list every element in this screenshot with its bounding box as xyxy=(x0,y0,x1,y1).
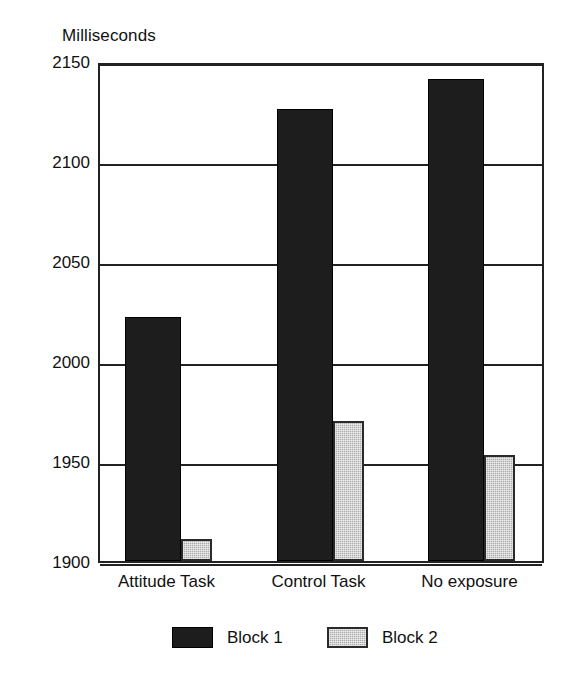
plot-area xyxy=(98,63,544,563)
x-axis-category-labels: Attitude TaskControl TaskNo exposure xyxy=(98,572,544,600)
gray-swatch xyxy=(327,627,368,648)
bar-chart: Milliseconds 215021002050200019501900 At… xyxy=(0,0,571,682)
black-swatch xyxy=(172,627,213,648)
legend-label: Block 1 xyxy=(227,628,283,648)
y-tick-label: 1950 xyxy=(10,454,90,471)
x-category-label: Attitude Task xyxy=(87,572,247,592)
y-tick-label: 2150 xyxy=(10,54,90,71)
y-tick-label: 1900 xyxy=(10,554,90,571)
gridline-2150 xyxy=(100,64,542,66)
x-category-label: No exposure xyxy=(390,572,550,592)
y-tick-label: 2050 xyxy=(10,254,90,271)
gridline-1900 xyxy=(100,564,542,566)
y-tick-label: 2000 xyxy=(10,354,90,371)
bar-block2 xyxy=(484,455,515,561)
legend-item-block-2: Block 2 xyxy=(327,627,438,648)
bar-block1 xyxy=(277,109,333,561)
bar-block2 xyxy=(181,539,212,561)
y-tick-label: 2100 xyxy=(10,154,90,171)
y-axis-title: Milliseconds xyxy=(62,26,156,46)
y-axis-tick-labels: 215021002050200019501900 xyxy=(8,63,90,563)
x-category-label: Control Task xyxy=(239,572,399,592)
legend-label: Block 2 xyxy=(382,628,438,648)
bar-block1 xyxy=(125,317,181,561)
bar-block2 xyxy=(333,421,364,561)
chart-legend: Block 1Block 2 xyxy=(0,627,571,661)
legend-item-block-1: Block 1 xyxy=(172,627,283,648)
bar-block1 xyxy=(428,79,484,561)
